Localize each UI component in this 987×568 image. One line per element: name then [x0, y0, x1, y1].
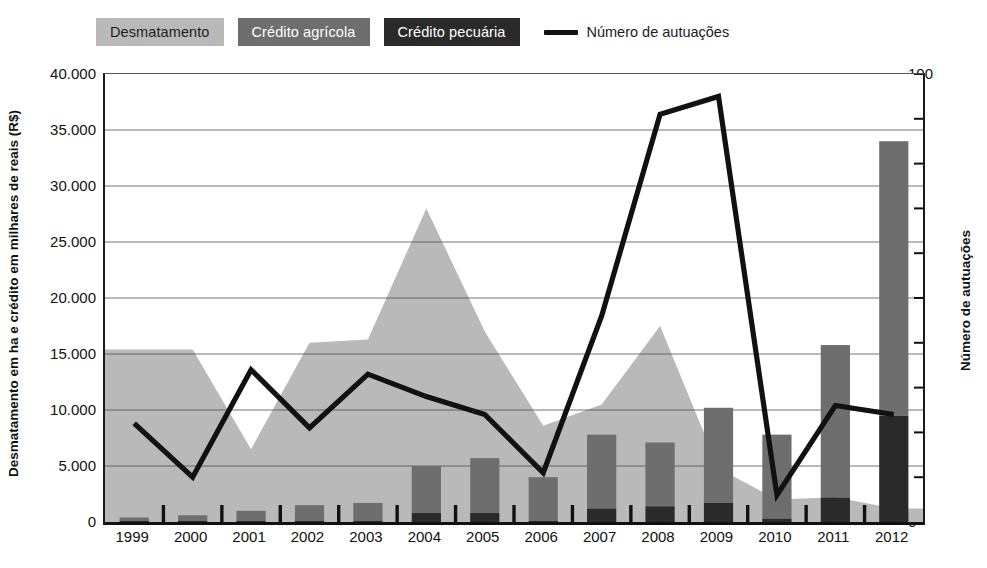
legend-item-desmatamento: Desmatamento [96, 18, 224, 46]
bar-segment-credito-agricola [529, 477, 558, 521]
left-axis-tick-label: 30.000 [50, 177, 96, 194]
bar-segment-credito-pecuaria [879, 416, 908, 522]
legend-gap [224, 32, 238, 33]
x-axis-tick-label: 2007 [570, 528, 628, 545]
line-swatch-icon [544, 30, 578, 35]
x-axis-tick-label: 2003 [337, 528, 395, 545]
x-axis-tick-label: 2005 [454, 528, 512, 545]
left-axis-tick-label: 10.000 [50, 401, 96, 418]
series-area-desmatamento [105, 208, 923, 522]
bar-segment-credito-pecuaria [295, 521, 324, 522]
right-axis-title: Número de autuações [955, 150, 977, 450]
x-axis-tick-label: 2011 [804, 528, 862, 545]
x-axis-tick-label: 2002 [278, 528, 336, 545]
bar-segment-credito-agricola [645, 442, 674, 506]
left-axis-title: Desmatamento em ha e crédito em milhares… [2, 78, 24, 508]
x-axis-tick-label: 2006 [512, 528, 570, 545]
x-axis-tick-label: 2000 [161, 528, 219, 545]
bar-segment-credito-pecuaria [587, 509, 616, 522]
x-axis-tick-label: 1999 [103, 528, 161, 545]
chart-root: Desmatamento Crédito agrícola Crédito pe… [0, 0, 987, 568]
left-axis-tick-label: 15.000 [50, 345, 96, 362]
bar-segment-credito-pecuaria [236, 521, 265, 522]
legend-gap [370, 32, 384, 33]
left-axis-tick-label: 25.000 [50, 233, 96, 250]
x-axis-tick-label: 2008 [629, 528, 687, 545]
bar-segment-credito-agricola [704, 408, 733, 503]
legend-item-credito-pecuaria: Crédito pecuária [384, 18, 520, 46]
bar-segment-credito-pecuaria [178, 521, 207, 522]
bar-segment-credito-agricola [295, 505, 324, 521]
left-axis-tick-label: 40.000 [50, 65, 96, 82]
bar-segment-credito-pecuaria [412, 513, 441, 522]
x-axis-tick-label: 2009 [687, 528, 745, 545]
x-axis-tick-label: 2001 [220, 528, 278, 545]
legend-item-credito-agricola: Crédito agrícola [238, 18, 370, 46]
bar-segment-credito-agricola [178, 515, 207, 521]
bar-segment-credito-pecuaria [470, 513, 499, 522]
plot-area [103, 73, 925, 525]
bar-segment-credito-agricola [412, 466, 441, 513]
left-axis-tick-label: 5.000 [58, 457, 96, 474]
bar-segment-credito-pecuaria [704, 503, 733, 522]
left-axis-tick-label: 20.000 [50, 289, 96, 306]
x-axis-tick-label: 2010 [746, 528, 804, 545]
x-axis-tick-labels: 1999200020012002200320042005200620072008… [103, 528, 921, 545]
x-axis-tick-label: 2004 [395, 528, 453, 545]
bar-segment-credito-pecuaria [353, 521, 382, 522]
right-axis-title-text: Número de autuações [959, 229, 974, 370]
bar-segment-credito-agricola [879, 141, 908, 415]
bar-segment-credito-agricola [120, 518, 149, 521]
left-axis-tick-label: 35.000 [50, 121, 96, 138]
chart-legend: Desmatamento Crédito agrícola Crédito pe… [96, 18, 729, 46]
bar-segment-credito-pecuaria [120, 521, 149, 522]
left-axis-tick-label: 0 [88, 513, 96, 530]
bar-segment-credito-pecuaria [762, 519, 791, 522]
bar-segment-credito-agricola [353, 503, 382, 521]
bar-segment-credito-pecuaria [645, 506, 674, 522]
bar-segment-credito-agricola [470, 458, 499, 513]
bar-segment-credito-pecuaria [529, 521, 558, 522]
legend-line-label: Número de autuações [587, 24, 730, 40]
legend-item-numero-autuacoes: Número de autuações [544, 24, 730, 40]
x-axis-tick-label: 2012 [862, 528, 920, 545]
bar-segment-credito-agricola [587, 435, 616, 509]
bar-segment-credito-pecuaria [821, 497, 850, 522]
bar-segment-credito-agricola [236, 511, 265, 521]
left-axis-title-text: Desmatamento em ha e crédito em milhares… [6, 110, 21, 477]
